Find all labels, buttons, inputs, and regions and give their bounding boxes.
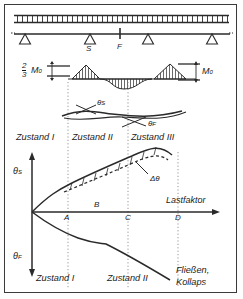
support-2: [85, 34, 96, 44]
state-label-top-3: Zustand III: [131, 133, 174, 142]
support-4: [207, 34, 218, 44]
fraction-numerator: 2: [22, 62, 26, 70]
point-label-b: B: [94, 201, 99, 209]
theta-f-hinge-label: θF: [148, 120, 156, 128]
hatch-band: [14, 16, 229, 23]
state-label-bottom-2: Zustand II: [107, 274, 148, 283]
moment-left-symbol: M0: [31, 66, 42, 75]
fraction-denominator: 3: [22, 70, 26, 79]
state-label-top-1: Zustand I: [16, 133, 54, 142]
axis-label-theta-f: θF: [13, 252, 22, 261]
figure-root: S F 2 3 M0 M0 θS θF Zustand I Zustand II…: [0, 0, 243, 299]
beam-line: [11, 33, 233, 34]
moment-left-fraction: 2 3: [22, 62, 26, 79]
point-label-c: C: [125, 214, 131, 222]
delta-theta-label: Δθ: [150, 175, 160, 183]
load-label-f: F: [117, 43, 122, 51]
state-label-bottom-1: Zustand I: [36, 274, 74, 283]
curve-theta-f: [32, 212, 170, 280]
axis-label-theta-s: θS: [13, 167, 22, 176]
x-axis-label-lastfaktor: Lastfaktor: [166, 196, 206, 205]
state-label-bottom-3: Fließen,: [176, 266, 209, 275]
moment-diagram: [47, 61, 200, 89]
support-3: [143, 34, 154, 44]
state-label-top-2: Zustand II: [72, 133, 113, 142]
dotted-guides: [68, 82, 178, 288]
state-label-bottom-4: Kollaps: [176, 278, 206, 287]
theta-s-hinge-label: θS: [97, 99, 105, 107]
point-label-d: D: [175, 214, 181, 222]
hinge-rotation-diagram: [62, 105, 186, 127]
support-label-s: S: [86, 45, 91, 53]
point-label-a: A: [64, 214, 69, 222]
moment-right-symbol: M0: [202, 67, 213, 76]
support-1: [20, 34, 31, 44]
